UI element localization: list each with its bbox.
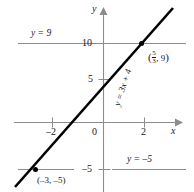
x-tick-label-0: 0	[92, 127, 97, 137]
label-y-equals-9: y = 9	[31, 29, 51, 39]
graph-figure: x y 10 5 –5 –2 0 2 y = 9 y = –5 y = 3x +…	[0, 0, 194, 192]
point-marker-upper	[139, 41, 144, 46]
y-axis-arrow	[100, 7, 108, 15]
y-tick-label-5: 5	[88, 74, 93, 84]
x-tick-label-2: 2	[141, 127, 146, 137]
point-label-close-paren: )	[165, 51, 169, 63]
x-axis-label: x	[171, 126, 175, 136]
label-y-equals-minus5: y = –5	[127, 155, 152, 165]
y-tick-label-minus5: –5	[82, 164, 92, 174]
point-marker-lower	[33, 167, 38, 172]
y-tick-label-10: 10	[82, 38, 92, 48]
y-axis-label: y	[92, 4, 96, 14]
graph-canvas	[0, 0, 194, 192]
point-label-upper: (53, 9)	[148, 50, 169, 65]
x-tick-label-minus2: –2	[46, 127, 56, 137]
x-axis-arrow	[175, 119, 183, 127]
point-label-lower: (–3, –5)	[37, 176, 66, 185]
